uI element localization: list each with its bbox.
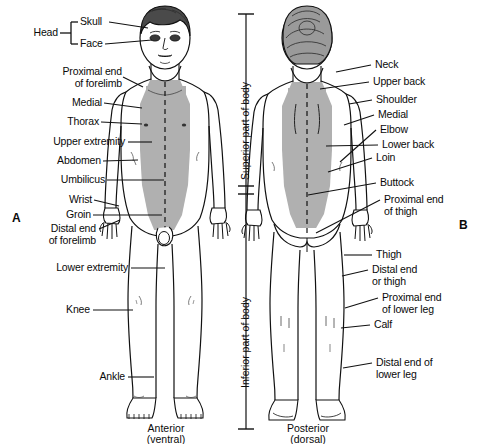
label-ankle: Ankle [70, 371, 125, 383]
caption-posterior-line2: (dorsal) [262, 433, 354, 444]
axis-label-inferior: Inferior part of body [239, 297, 251, 388]
label-lower-extremity: Lower extremity [10, 262, 128, 274]
panel-letter-b: B [459, 218, 468, 232]
label-buttock: Buttock [380, 177, 414, 189]
label-face: Face [80, 38, 120, 50]
label-proximal-end-of-lower-leg: Proximal end of lower leg [382, 292, 441, 315]
label-head: Head [14, 27, 58, 39]
label-upper-extremity: Upper extremity [10, 136, 125, 148]
label-upper-back: Upper back [373, 76, 425, 88]
head-bracket [60, 22, 78, 44]
label-groin: Groin [36, 209, 91, 221]
label-distal-end-of-forelimb: Distal end of forelimb [16, 223, 96, 246]
label-distal-end-or-thigh: Distal end or thigh [372, 264, 417, 287]
label-knee: Knee [42, 304, 90, 316]
label-shoulder: Shoulder [376, 94, 417, 106]
label-proximal-end-of-forelimb: Proximal end of forelimb [18, 66, 122, 89]
label-thorax: Thorax [28, 116, 99, 128]
posterior-figure [242, 6, 372, 420]
label-calf: Calf [374, 319, 392, 331]
label-skull: Skull [80, 16, 120, 28]
label-distal-end-of-lower-leg: Distal end of lower leg [376, 357, 432, 380]
caption-anterior-line2: (ventral) [120, 433, 212, 444]
label-abdomen: Abdomen [22, 155, 101, 167]
label-lower-back: Lower back [382, 139, 434, 151]
label-proximal-end-of-thigh: Proximal end of thigh [384, 194, 443, 217]
label-medial-posterior: Medial [378, 109, 408, 121]
label-loin: Loin [376, 152, 395, 164]
label-elbow: Elbow [380, 124, 408, 136]
anatomy-figure: Head Skull Face Proximal end of forelimb… [0, 0, 481, 444]
label-wrist: Wrist [36, 194, 92, 206]
label-neck: Neck [375, 59, 398, 71]
label-thigh: Thigh [376, 249, 402, 261]
label-medial: Medial [28, 97, 102, 109]
panel-letter-a: A [12, 211, 21, 225]
label-umbilicus: Umbilicus [22, 174, 105, 186]
axis-label-superior: Superior part of body [239, 82, 251, 180]
